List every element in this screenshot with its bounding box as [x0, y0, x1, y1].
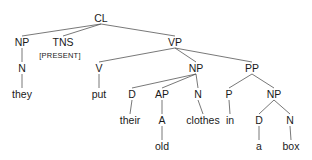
tree-node-vp: VP — [168, 37, 182, 48]
edge-np3-n3 — [274, 100, 290, 114]
edge-pp-p — [229, 74, 252, 88]
tree-node-a_adj: A — [158, 115, 165, 126]
tree-node-they: they — [12, 89, 32, 100]
edge-np3-d2 — [259, 100, 274, 114]
tree-node-put: put — [92, 89, 107, 100]
edge-vp-v — [99, 48, 175, 62]
tree-node-np3: NP — [267, 89, 282, 100]
edge-n2-clothes — [198, 100, 203, 114]
edge-cl-tns — [63, 24, 101, 36]
edge-np2-d1 — [132, 74, 196, 88]
tree-node-a_det: a — [256, 141, 262, 152]
tree-node-clothes: clothes — [186, 115, 219, 126]
tree-node-d2: D — [255, 115, 263, 126]
tree-node-d1: D — [128, 89, 136, 100]
tree-node-cl: CL — [94, 13, 107, 24]
tree-node-n2: N — [194, 89, 202, 100]
tree-node-n1: N — [18, 63, 26, 74]
edge-d1-their — [130, 100, 132, 114]
tree-node-old: old — [155, 141, 169, 152]
tree-node-their: their — [120, 115, 140, 126]
edge-n3-box — [290, 126, 291, 140]
tree-node-n3: N — [286, 115, 294, 126]
tree-node-pp: PP — [245, 63, 259, 74]
tree-edges — [0, 0, 312, 160]
tree-node-np1: NP — [15, 37, 30, 48]
edge-cl-vp — [101, 24, 175, 36]
edge-cl-np1 — [22, 24, 101, 36]
edge-np2-ap — [162, 74, 196, 88]
tree-node-tns: TNS — [53, 37, 74, 48]
edge-pp-np3 — [252, 74, 274, 88]
tree-node-p: P — [225, 89, 232, 100]
tree-node-in: in — [226, 115, 234, 126]
tree-node-v: V — [95, 63, 102, 74]
tree-node-present: [PRESENT] — [39, 52, 80, 60]
edge-vp-pp — [175, 48, 252, 62]
edge-p-in — [229, 100, 230, 114]
tree-node-np2: NP — [189, 63, 204, 74]
edge-np2-n2 — [196, 74, 198, 88]
tree-node-ap: AP — [155, 89, 169, 100]
tree-node-box: box — [283, 141, 300, 152]
